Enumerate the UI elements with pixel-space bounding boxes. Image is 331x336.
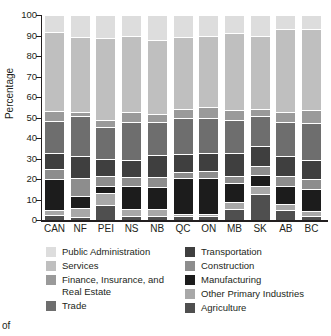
bar-nf [71,15,90,220]
bar-segment [174,178,193,214]
bar-segment [96,193,115,204]
bar-segment [276,29,295,112]
legend-item: Other Primary Industries [185,288,331,300]
bar-segment [276,210,295,220]
bar-segment [225,33,244,110]
bar-segment [148,177,167,187]
legend-swatch-icon [46,301,56,311]
bar-segment [71,116,90,156]
bar-segment [96,127,115,159]
x-axis-line [41,220,328,222]
bar-segment [276,112,295,121]
bar-segment [251,146,270,165]
bar-segment [225,202,244,209]
legend-swatch-icon [185,303,195,313]
bar-qc [174,15,193,220]
bar-segment [174,37,193,110]
legend-column-left: Public AdministrationServicesFinance, In… [46,246,186,314]
bar-segment [148,114,167,121]
legend-item: Agriculture [185,302,331,314]
y-axis-tick-label: 40 [26,133,37,143]
bar-segment [302,211,321,216]
bar-segment [251,175,270,186]
bar-segment [225,120,244,154]
bar-segment [199,153,218,170]
bar-segment [71,178,90,196]
bar-segment [199,178,218,214]
bar-segment [199,36,218,108]
legend-swatch-icon [185,289,195,299]
bar-segment [302,123,321,160]
y-axis-tick-label: 30 [26,154,37,164]
y-axis-tick-label: 70 [26,72,37,82]
bar-segment [174,214,193,216]
bar-segment [302,110,321,122]
bar-segment [251,36,270,110]
bar-segment [276,122,295,157]
legend-swatch-icon [46,247,56,257]
x-axis-label-bc: BC [297,223,327,234]
bar-segment [96,159,115,176]
bar-segment [71,208,90,217]
bar-segment [148,15,167,40]
bar-segment [225,110,244,119]
bar-segment [276,204,295,210]
bar-segment [45,179,64,210]
bar-segment [302,29,321,110]
bar-segment [302,15,321,29]
bar-segment [148,187,167,209]
y-axis-tick-label: 80 [26,51,37,61]
bar-segment [225,153,244,176]
bar-segment [174,15,193,37]
bar-segment [251,15,270,36]
bar-segment [199,107,218,117]
bar-segment [174,109,193,117]
bar-segment [225,183,244,201]
legend-label: Trade [62,300,86,312]
legend-label: Manufacturing [201,274,261,286]
bar-nb [148,15,167,220]
bar-segment [71,156,90,178]
bar-segment [225,176,244,183]
bar-segment [122,36,141,113]
bar-ab [276,15,295,220]
bar-can [45,15,64,220]
bar-segment [251,194,270,220]
stacked-bar-chart-figure: 0102030405060708090100 Percentage CANNFP… [0,0,331,336]
legend-label: Transportation [201,246,262,258]
bar-segment [96,120,115,127]
bar-segment [251,186,270,194]
bar-segment [71,217,90,220]
y-axis-tick-label: 50 [26,113,37,123]
bar-segment [199,216,218,220]
bar-pei [96,15,115,220]
bar-segment [302,160,321,179]
y-axis-tick-label: 20 [26,174,37,184]
bar-segment [174,118,193,155]
bar-segment [199,118,218,154]
bar-segment [174,216,193,220]
bar-segment [276,186,295,203]
bar-bc [302,15,321,220]
bar-segment [148,122,167,156]
legend-swatch-icon [185,247,195,257]
bar-segment [45,15,64,32]
bar-segment [45,153,64,168]
bar-segment [199,214,218,216]
bar-sk [251,15,270,220]
bar-segment [96,38,115,120]
legend-swatch-icon [185,275,195,285]
bar-segment [122,112,141,121]
legend-column-right: TransportationConstructionManufacturingO… [185,246,331,316]
bar-segment [96,186,115,193]
bar-segment [199,171,218,178]
bar-segment [45,210,64,215]
bar-segment [276,15,295,29]
y-axis-line [41,15,42,221]
bar-segment [251,166,270,175]
bar-mb [225,15,244,220]
legend-swatch-icon [46,261,56,271]
bar-segment [45,111,64,120]
bar-segment [96,205,115,220]
bar-segment [71,196,90,207]
